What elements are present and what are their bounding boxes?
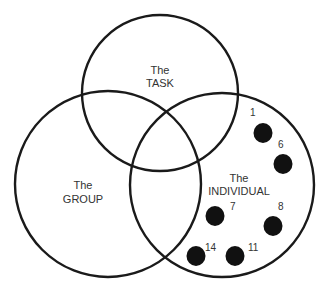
member-6: 6 xyxy=(274,139,293,174)
svg-text:8: 8 xyxy=(278,201,284,212)
svg-text:14: 14 xyxy=(205,242,217,253)
group-label-line1: The xyxy=(74,179,93,191)
svg-text:11: 11 xyxy=(248,242,259,253)
member-8: 8 xyxy=(264,201,285,236)
member-14: 14 xyxy=(187,242,217,266)
svg-text:1: 1 xyxy=(250,107,256,118)
svg-text:6: 6 xyxy=(278,139,284,150)
member-1: 1 xyxy=(250,107,273,143)
individual-label-line2: INDIVIDUAL xyxy=(208,185,270,197)
group-label-line2: GROUP xyxy=(63,193,103,205)
member-11: 11 xyxy=(226,242,259,266)
svg-text:7: 7 xyxy=(230,201,236,212)
member-7: 7 xyxy=(206,201,237,226)
task-label-line1: The xyxy=(151,64,170,76)
individual-label-line1: The xyxy=(230,172,249,184)
group-circle xyxy=(15,91,201,277)
task-label-line2: TASK xyxy=(146,77,175,89)
venn-diagram: The TASK The GROUP The INDIVIDUAL 1 6 7 … xyxy=(0,0,319,292)
